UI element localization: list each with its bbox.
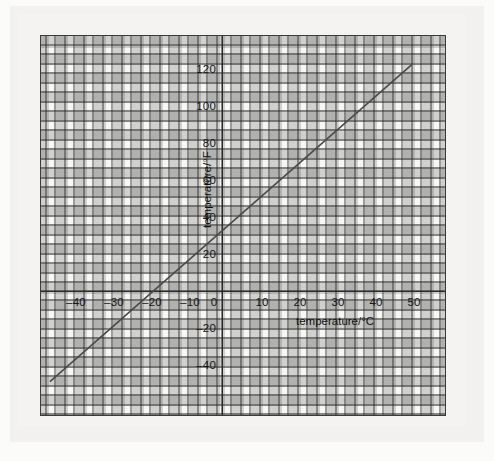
x-axis-title: temperature/°C [296,316,374,328]
plot-area [40,35,446,416]
x-tick-label-20: 20 [293,297,306,309]
x-tick-label-50: 50 [407,297,420,309]
y-tick-label--40: –40 [196,360,216,372]
x-tick-label-30: 30 [331,297,344,309]
y-tick-label-80: 80 [203,138,216,150]
y-tick-label-100: 100 [196,101,216,113]
graph-page: –40 –30 –20 –10 0 10 20 30 40 50 120 100… [0,0,494,461]
y-axis-title: temperature/°F [202,151,214,228]
x-tick-label--30: –30 [104,297,124,309]
y-tick-label--20: –20 [196,323,216,335]
y-tick-label-120: 120 [196,64,216,76]
y-tick-label-20: 20 [203,249,216,261]
data-series-line [41,36,446,416]
x-tick-label-0: 0 [211,297,218,309]
x-tick-label-10: 10 [255,297,268,309]
x-tick-label-40: 40 [369,297,382,309]
x-tick-label--10: –10 [180,297,200,309]
x-tick-label--40: –40 [66,297,86,309]
x-tick-label--20: –20 [142,297,162,309]
